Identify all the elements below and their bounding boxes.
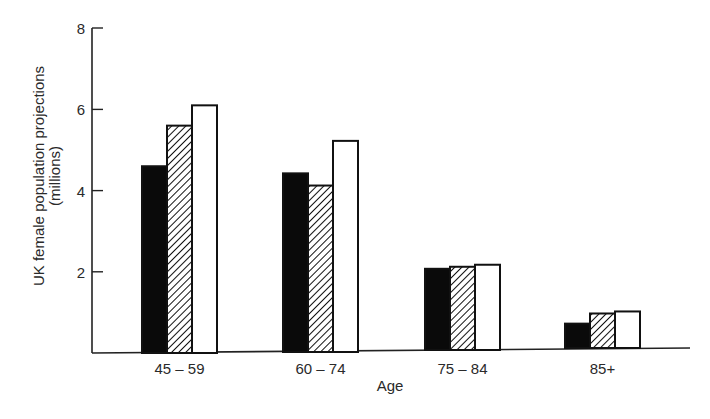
- bar-open: [615, 311, 640, 348]
- bar-group: [565, 311, 640, 348]
- bar-hatch: [308, 186, 333, 352]
- bar-group: [142, 105, 217, 353]
- y-tick-label: 6: [77, 101, 85, 118]
- x-tick-label: 45 – 59: [154, 360, 204, 377]
- bar-open: [475, 265, 500, 350]
- y-tick-label: 8: [77, 20, 85, 37]
- bar-hatch: [167, 126, 192, 353]
- y-tick-label: 2: [77, 264, 85, 281]
- y-axis-title: UK female population projections (millio…: [30, 66, 63, 286]
- bar-hatch: [590, 313, 615, 348]
- bars: [142, 105, 640, 353]
- y-axis-title-line2: (millions): [46, 146, 63, 206]
- y-ticks: 2468: [77, 20, 103, 281]
- y-axis-title-line1: UK female population projections: [30, 66, 47, 286]
- x-tick-labels: 45 – 5960 – 7475 – 8485+: [154, 360, 615, 377]
- y-tick-label: 4: [77, 183, 85, 200]
- bar-solid: [565, 324, 590, 348]
- bar-group: [425, 265, 500, 350]
- bar-solid: [142, 166, 167, 353]
- bar-hatch: [450, 267, 475, 350]
- bar-open: [192, 105, 217, 353]
- bar-solid: [425, 269, 450, 350]
- bar-chart: 2468 45 – 5960 – 7475 – 8485+ Age UK fem…: [0, 0, 710, 419]
- x-axis-title: Age: [377, 377, 404, 394]
- y-axis: 2468: [77, 20, 103, 353]
- bar-solid: [283, 173, 308, 352]
- bar-group: [283, 141, 358, 352]
- x-tick-label: 75 – 84: [437, 360, 487, 377]
- x-tick-label: 85+: [590, 360, 616, 377]
- x-tick-label: 60 – 74: [295, 360, 345, 377]
- bar-open: [333, 141, 358, 352]
